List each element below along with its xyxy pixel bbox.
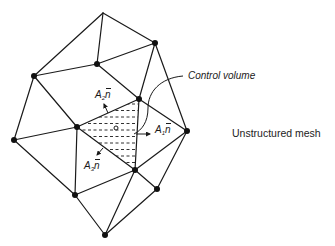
control-volume-label: Control volume: [188, 71, 255, 81]
mesh-edge: [75, 127, 77, 195]
mesh-node: [152, 40, 158, 46]
normal-a2-vector: n: [105, 89, 111, 100]
normal-a2-area: A: [95, 89, 102, 100]
mesh-edge: [14, 127, 77, 140]
mesh-edge: [34, 64, 97, 76]
diagram-title-label: Unstructured mesh: [232, 128, 321, 139]
normal-arrow-a3: [97, 148, 103, 155]
mesh-edge: [155, 43, 187, 131]
mesh-node: [154, 186, 160, 192]
normal-a1-vector: n: [165, 124, 171, 135]
mesh-edge: [103, 13, 155, 43]
mesh-edge: [34, 13, 103, 76]
mesh-edge: [157, 131, 187, 189]
control-volume-centroid: [114, 126, 118, 130]
mesh-edge: [97, 43, 155, 64]
mesh-node: [102, 232, 108, 238]
mesh-edge: [135, 131, 187, 170]
mesh-edge: [75, 170, 135, 195]
mesh-edge: [105, 170, 135, 235]
mesh-node: [184, 128, 190, 134]
mesh-edge: [139, 43, 155, 99]
mesh-node: [31, 73, 37, 79]
mesh-node: [136, 96, 142, 102]
mesh-edge: [75, 195, 105, 235]
mesh-edge: [14, 76, 34, 140]
normal-a3-vector: n: [94, 160, 100, 171]
normal-label-a3: A3n: [84, 160, 100, 172]
normal-label-a1: A1n: [155, 124, 171, 136]
mesh-edge: [135, 170, 157, 189]
mesh-node: [132, 167, 138, 173]
mesh-node: [94, 61, 100, 67]
normal-arrow-a2: [104, 104, 108, 113]
mesh-node: [74, 124, 80, 130]
mesh-edge: [105, 189, 157, 235]
normal-label-a2: A2n: [95, 89, 111, 101]
mesh-node: [11, 137, 17, 143]
mesh-edge: [34, 76, 77, 127]
mesh-edge: [97, 13, 103, 64]
mesh-nodes: [11, 40, 190, 238]
normal-a3-area: A: [84, 160, 91, 171]
normal-a1-area: A: [155, 124, 162, 135]
mesh-edge: [14, 140, 75, 195]
mesh-node: [72, 192, 78, 198]
